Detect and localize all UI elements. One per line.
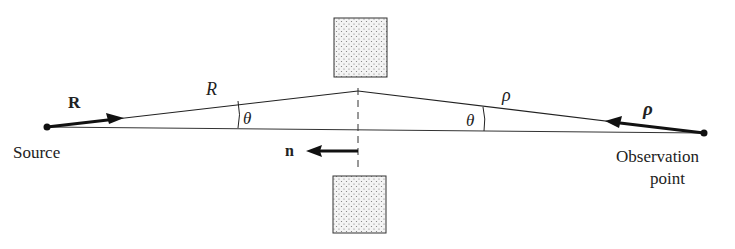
vector-rho-arrow — [620, 123, 704, 133]
screen-top-block — [334, 18, 387, 77]
vector-R-label: R — [68, 93, 81, 112]
theta-left-label: θ — [243, 109, 251, 128]
vector-R-arrowhead — [106, 113, 124, 124]
vector-rho-arrowhead — [605, 116, 622, 128]
diffraction-diagram: Source Observation point R R θ ρ θ ρ n — [0, 0, 735, 249]
screen-bottom-block — [333, 176, 386, 233]
normal-n-label: n — [285, 142, 294, 159]
observation-label-line1: Observation — [616, 147, 700, 166]
baseline — [47, 127, 704, 133]
vector-rho-label: ρ — [642, 98, 653, 119]
theta-right-label: θ — [466, 111, 474, 130]
source-point — [44, 124, 51, 131]
length-R-label: R — [205, 79, 217, 99]
normal-n-arrowhead — [306, 145, 322, 157]
observation-label-line2: point — [650, 169, 685, 188]
observation-point — [701, 130, 708, 137]
length-rho-label: ρ — [501, 85, 511, 105]
vector-R-arrow — [47, 120, 112, 128]
source-label: Source — [13, 143, 60, 162]
theta-arc-right — [483, 107, 485, 131]
